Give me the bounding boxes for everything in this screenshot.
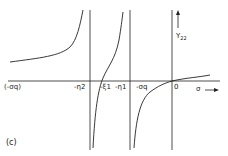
tick-label-neg-sigma-q: -σq: [136, 84, 147, 91]
tick-label-neg-eta2: -η2: [74, 84, 85, 91]
x-axis-label: σ: [196, 86, 200, 93]
arrow-right-icon: [214, 88, 219, 92]
tick-label-neg-xi1: -ξ1: [100, 84, 111, 91]
y-label-sub: 22: [180, 35, 186, 41]
curve-branch-2: [93, 12, 123, 148]
tick-label-neg-sigma-q-paren: (-σq): [4, 84, 21, 91]
diagram-canvas: [0, 0, 228, 156]
panel-label: (c): [6, 139, 17, 147]
y-axis-label: Y22: [176, 33, 187, 41]
arrow-up-icon: [176, 10, 180, 15]
tick-label-zero: 0: [174, 84, 178, 91]
tick-label-neg-eta1: -η1: [115, 84, 126, 91]
curve-branch-1: [10, 10, 83, 62]
